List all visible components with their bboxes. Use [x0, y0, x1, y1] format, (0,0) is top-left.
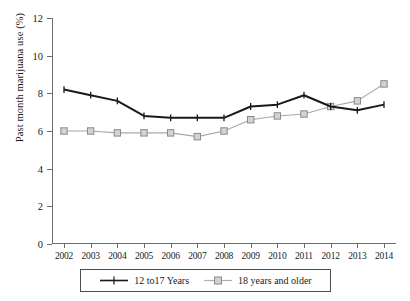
data-point-marker: [141, 130, 147, 136]
data-point-marker: [354, 98, 360, 104]
data-point-marker: [167, 130, 173, 136]
y-axis-title: Past month marijuana use (%): [14, 0, 25, 163]
series-layer: [52, 18, 396, 244]
series-youth: [64, 86, 384, 121]
x-tick-label: 2004: [108, 251, 126, 261]
x-tick-label: 2012: [322, 251, 340, 261]
y-tick-label: 12: [33, 13, 44, 24]
x-tick-label: 2005: [135, 251, 153, 261]
y-tick-label: 4: [38, 163, 43, 174]
plot-area: 024681012 200220032004200520062007200820…: [52, 18, 396, 244]
y-tick: [47, 244, 52, 245]
legend-swatch-adults-line-icon: [203, 275, 233, 286]
data-point-marker: [301, 111, 307, 117]
legend-label-adults: 18 years and older: [238, 275, 312, 286]
marijuana-use-line-chart: Past month marijuana use (%) 024681012 2…: [0, 0, 410, 301]
x-tick-label: 2010: [268, 251, 286, 261]
legend-swatch-youth-line-icon: [99, 275, 129, 286]
data-point-marker: [381, 81, 387, 87]
x-tick-label: 2003: [82, 251, 100, 261]
data-point-marker: [194, 133, 200, 139]
legend-label-youth: 12 to17 Years: [134, 275, 189, 286]
x-tick-label: 2006: [162, 251, 180, 261]
x-tick-label: 2008: [215, 251, 233, 261]
x-tick-label: 2014: [375, 251, 393, 261]
y-tick-label: 10: [33, 50, 44, 61]
chart-legend: 12 to17 Years 18 years and older: [80, 269, 331, 292]
y-tick-label: 0: [38, 239, 43, 250]
x-tick-label: 2002: [55, 251, 73, 261]
x-tick-label: 2009: [242, 251, 260, 261]
legend-item-adults[interactable]: 18 years and older: [203, 275, 312, 286]
x-tick-label: 2007: [188, 251, 206, 261]
series-line: [64, 90, 384, 118]
data-point-marker: [221, 128, 227, 134]
y-tick-label: 2: [38, 201, 43, 212]
series-adults: [61, 81, 387, 140]
legend-item-youth[interactable]: 12 to17 Years: [99, 275, 189, 286]
y-tick-label: 8: [38, 88, 43, 99]
x-tick-label: 2011: [295, 251, 313, 261]
x-tick-label: 2013: [348, 251, 366, 261]
data-point-marker: [114, 130, 120, 136]
data-point-marker: [61, 128, 67, 134]
data-point-marker: [87, 128, 93, 134]
data-point-marker: [274, 113, 280, 119]
y-tick-label: 6: [38, 126, 43, 137]
data-point-marker: [247, 117, 253, 123]
